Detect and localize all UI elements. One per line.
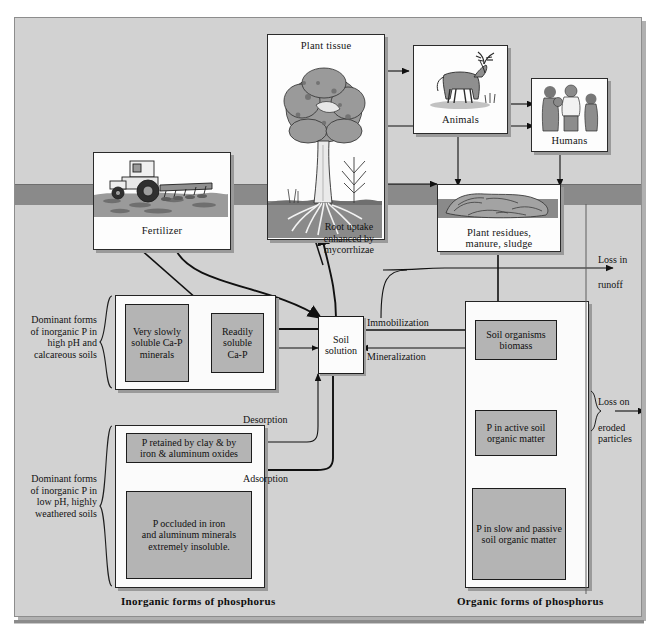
label-adsorption: Adsorption [243,473,323,485]
brace-eroded-particles [590,390,602,432]
humans-label: Humans [532,135,607,146]
manure-pile-illustration [438,185,558,225]
vss-line1: Very slowly [133,326,181,338]
brace-label-low-ph: Dominant forms of inorganic P in low pH,… [15,473,97,519]
family-illustration [534,82,605,132]
label-root-uptake: Root uptake enhanced by mycorrhizae [311,221,387,256]
loss-eroded-line2: eroded [598,422,658,434]
sob-line2: biomass [500,340,533,352]
pool-very-slowly-soluble-ca-p: Very slowly soluble Ca-P minerals [125,304,189,382]
pr-line1: P retained by clay & by [142,437,236,449]
low-ph-line2: of inorganic P in [15,485,97,497]
brace-high-ph [99,295,113,389]
animals-label: Animals [414,114,507,125]
label-immobilization: Immobilization [367,317,479,329]
po-line2: and aluminum minerals [142,529,236,541]
loss-runoff-line1: Loss in [598,254,658,266]
brace-label-high-ph: Dominant forms of inorganic P in high pH… [15,314,97,360]
caption-inorganic-forms: Inorganic forms of phosphorus [121,595,275,607]
rs-line3: Ca-P [228,349,248,361]
po-line1: P occluded in iron [153,518,226,530]
loss-eroded-line3: particles [598,433,658,445]
pa-line1: P in active soil [487,422,546,434]
card-fertilizer: Fertilizer [93,152,231,250]
po-line3: extremely insoluble. [148,541,230,553]
pool-p-occluded-minerals: P occluded in iron and aluminum minerals… [126,491,252,579]
pool-p-active-organic-matter: P in active soil organic matter [475,410,557,456]
root-uptake-line2: enhanced by [311,233,387,245]
label-mineralization: Mineralization [367,351,479,363]
pool-soil-organisms-biomass: Soil organisms biomass [475,320,557,360]
plant-tissue-label: Plant tissue [268,40,384,51]
card-plant-tissue: Plant tissue [267,34,385,240]
tree-illustration [268,53,382,238]
plant-residues-label-line1: Plant residues, [438,227,560,238]
high-ph-line2: of inorganic P in [15,326,97,338]
deer-illustration [416,49,505,111]
card-humans: Humans [531,78,608,152]
card-plant-residues: Plant residues, manure, sludge [437,184,561,252]
high-ph-line3: high pH and [15,337,97,349]
brace-low-ph [99,425,113,587]
fertilizer-label: Fertilizer [94,225,230,236]
pool-p-retained-clay-oxides: P retained by clay & by iron & aluminum … [126,433,252,463]
vss-line3: minerals [140,349,174,361]
label-desorption: Desorption [243,414,323,426]
rs-line2: soluble [223,337,252,349]
caption-organic-forms: Organic forms of phosphorus [457,595,604,607]
high-ph-line4: calcareous soils [15,349,97,361]
plant-residues-label-line2: manure, sludge [438,238,560,249]
low-ph-line4: weathered soils [15,508,97,520]
vss-line2: soluble Ca-P [131,337,182,349]
tractor-illustration [94,153,228,217]
psp-line2: soil organic matter [482,534,557,546]
low-ph-line1: Dominant forms [15,473,97,485]
label-loss-in-runoff: Loss in runoff [598,254,658,290]
rs-line1: Readily [222,326,253,338]
root-uptake-line1: Root uptake [311,221,387,233]
low-ph-line3: low pH, highly [15,496,97,508]
ss-line2: solution [325,345,357,357]
ss-line1: Soil [333,334,349,346]
figure-panel: Plant tissue [14,17,642,617]
sob-line1: Soil organisms [486,329,546,341]
pool-soil-solution: Soil solution [318,316,364,374]
loss-runoff-line2: runoff [598,279,658,291]
pr-line2: iron & aluminum oxides [140,448,238,460]
pool-readily-soluble-ca-p: Readily soluble Ca-P [211,313,264,373]
high-ph-line1: Dominant forms [15,314,97,326]
root-uptake-line3: mycorrhizae [311,244,387,256]
psp-line1: P in slow and passive [476,523,562,535]
figure-bottom-rule-highlight [14,623,644,624]
loss-eroded-line1: Loss on [598,396,658,408]
card-animals: Animals [413,45,508,134]
pa-line2: organic matter [487,433,545,445]
phosphorus-cycle-figure: Plant tissue [0,0,658,633]
right-trunk-line [583,204,589,594]
pool-p-slow-passive-organic-matter: P in slow and passive soil organic matte… [472,488,566,580]
label-loss-on-eroded-particles: Loss on eroded particles [598,396,658,445]
